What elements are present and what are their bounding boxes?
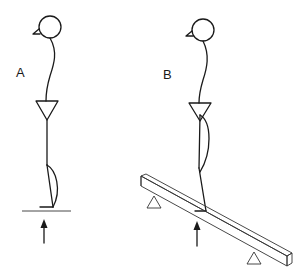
support-triangle-left-icon	[147, 196, 161, 208]
leg-upper-line	[199, 115, 200, 168]
arrow-up-icon	[194, 221, 201, 230]
hip-triangle-icon	[36, 101, 58, 120]
arrow-up-icon	[41, 219, 48, 228]
knee-curve	[200, 115, 209, 172]
beam-end-face	[287, 253, 292, 266]
nose-icon	[33, 29, 40, 34]
head-icon	[39, 16, 61, 38]
shin-line	[47, 165, 53, 207]
inclined-beam	[141, 174, 292, 266]
force-arrow-a	[41, 219, 48, 243]
figure-a	[22, 16, 71, 243]
spine-curve	[199, 41, 207, 103]
diagram-canvas	[0, 0, 305, 272]
force-arrow-b	[194, 221, 201, 246]
spine-curve	[46, 38, 55, 101]
figure-b	[141, 19, 292, 266]
beam-front-face	[141, 176, 287, 266]
support-triangle-right-icon	[247, 252, 261, 264]
beam-top-face	[141, 174, 292, 256]
head-icon	[192, 19, 214, 41]
